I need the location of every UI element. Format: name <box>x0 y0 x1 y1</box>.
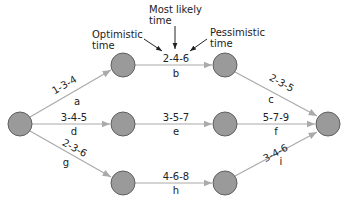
activity-f-id: f <box>274 126 278 137</box>
activity-b-estimate: 2-4-6 <box>163 53 189 64</box>
pessimistic-label-line1: Pessimistic <box>210 27 265 38</box>
edge-g <box>30 131 111 177</box>
activity-a-estimate: 1-3-4 <box>50 74 78 97</box>
node-mid-1 <box>111 112 135 136</box>
activity-i-id: i <box>280 156 283 167</box>
activity-e-estimate: 3-5-7 <box>163 112 189 123</box>
optimistic-label-line2: time <box>92 40 115 51</box>
pessimistic-pointer-arrow <box>190 39 207 51</box>
activity-b-id: b <box>173 68 179 79</box>
node-bot-2 <box>213 171 237 195</box>
activity-c-id: c <box>268 94 274 105</box>
node-end <box>316 112 340 136</box>
activity-d-estimate: 3-4-5 <box>61 112 87 123</box>
optimistic-pointer-arrow <box>144 39 162 51</box>
activity-h-id: h <box>173 185 179 196</box>
optimistic-label-line1: Optimistic <box>92 29 143 40</box>
node-top-2 <box>213 53 237 77</box>
activity-a-id: a <box>74 96 80 107</box>
most-likely-label-line2: time <box>149 15 172 26</box>
node-mid-2 <box>213 112 237 136</box>
activity-d-id: d <box>71 126 77 137</box>
activity-c-estimate: 2-3-5 <box>267 72 295 94</box>
most-likely-label-line1: Most likely <box>149 4 202 15</box>
activity-f-estimate: 5-7-9 <box>263 112 289 123</box>
node-start <box>8 112 32 136</box>
activity-g-id: g <box>63 157 69 168</box>
activity-g-estimate: 2-3-6 <box>60 137 88 159</box>
pessimistic-label-line2: time <box>210 38 233 49</box>
activity-i-estimate: 3-4-6 <box>261 142 289 164</box>
annotations: Optimistic time Most likely time Pessimi… <box>92 4 265 51</box>
node-top-1 <box>111 53 135 77</box>
pert-network-diagram: Optimistic time Most likely time Pessimi… <box>0 0 348 203</box>
activity-e-id: e <box>173 126 179 137</box>
node-bot-1 <box>111 171 135 195</box>
activity-h-estimate: 4-6-8 <box>163 171 189 182</box>
